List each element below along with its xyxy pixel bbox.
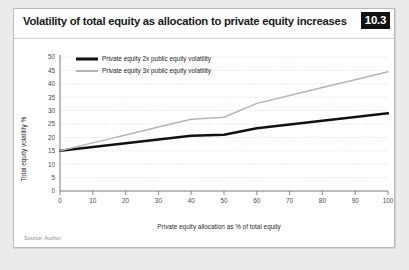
svg-text:45: 45	[48, 67, 56, 74]
svg-text:20: 20	[122, 197, 130, 204]
figure-card: Volatility of total equity as allocation…	[13, 8, 395, 248]
y-tick-labels: 05101520253035404550	[48, 53, 56, 194]
svg-text:5: 5	[51, 174, 55, 181]
svg-text:20: 20	[48, 134, 56, 141]
svg-text:10: 10	[89, 197, 97, 204]
x-axis-title: Private equity allocation as % of total …	[157, 223, 281, 231]
svg-text:50: 50	[48, 53, 56, 60]
svg-text:100: 100	[383, 197, 394, 204]
svg-text:35: 35	[48, 94, 56, 101]
svg-text:10: 10	[48, 161, 56, 168]
svg-text:Private equity 3x public equit: Private equity 3x public equity volatili…	[102, 67, 212, 75]
svg-text:50: 50	[220, 197, 228, 204]
svg-text:15: 15	[48, 147, 56, 154]
page-title: Volatility of total equity as allocation…	[23, 15, 347, 27]
x-tick-labels: 0102030405060708090100	[58, 197, 394, 204]
svg-text:60: 60	[253, 197, 261, 204]
line-chart: 05101520253035404550 0102030405060708090…	[14, 39, 396, 249]
svg-text:0: 0	[51, 187, 55, 194]
svg-text:70: 70	[286, 197, 294, 204]
source-note: Source: Author	[24, 235, 61, 241]
y-axis-title: Total equity volatility %	[20, 117, 28, 182]
x-tick-marks	[60, 191, 388, 195]
chart-legend: Private equity 2x public equity volatili…	[76, 55, 212, 75]
svg-text:30: 30	[48, 107, 56, 114]
svg-text:30: 30	[155, 197, 163, 204]
figure-number-badge: 10.3	[361, 12, 390, 29]
svg-text:90: 90	[352, 197, 360, 204]
svg-text:25: 25	[48, 120, 56, 127]
svg-text:0: 0	[58, 197, 62, 204]
svg-text:80: 80	[319, 197, 327, 204]
svg-text:40: 40	[48, 80, 56, 87]
svg-text:40: 40	[188, 197, 196, 204]
chart-plot-area: 05101520253035404550 0102030405060708090…	[14, 39, 394, 249]
figure-titlebar: Volatility of total equity as allocation…	[14, 9, 394, 39]
svg-text:Private equity 2x public equit: Private equity 2x public equity volatili…	[102, 55, 212, 63]
axis-lines	[60, 55, 388, 191]
